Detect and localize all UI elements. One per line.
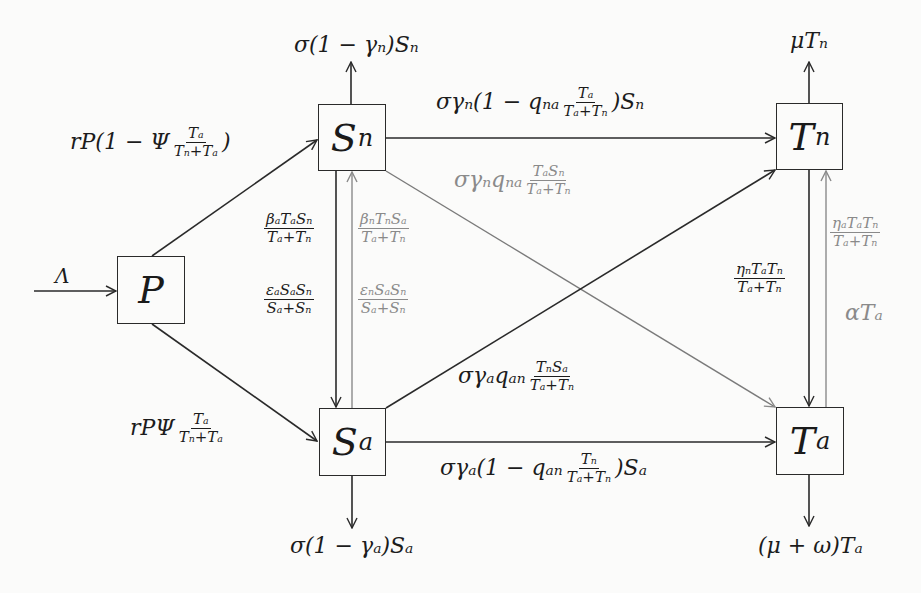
label-sa-to-sn-eps: εₙSₐSₙSₐ+Sₙ <box>356 283 410 316</box>
label-ta-out: (μ + ω)Tₐ <box>758 535 863 557</box>
label-p-to-sa: rPΨTₐTₙ+Tₐ <box>130 412 227 445</box>
label-sa-to-sn-beta: βₙTₙSₐTₐ+Tₙ <box>356 212 411 245</box>
label-tn-out: μTₙ <box>790 30 828 52</box>
label-sa-to-ta: σγₐ(1 − qₐₙTₙTₐ+Tₙ)Sₐ <box>440 452 647 485</box>
label-ta-to-tn-alpha: αTₐ <box>845 302 883 324</box>
label-sa-out: σ(1 − γₐ)Sₐ <box>290 535 413 557</box>
node-p-label: P <box>138 268 164 312</box>
label-sn-to-sa-eps: εₐSₐSₙSₐ+Sₙ <box>262 283 316 316</box>
node-sn-label: S <box>331 116 357 160</box>
node-tn-sub: n <box>815 123 830 151</box>
compartment-diagram: P Sn Sa Tn Ta Λ rP(1 − ΨTₐTₙ+Tₐ) rPΨTₐTₙ… <box>0 0 921 593</box>
node-sa-sub: a <box>359 428 373 456</box>
label-inflow-p: Λ <box>55 266 69 286</box>
node-sa: Sa <box>319 408 386 476</box>
label-ta-to-tn-eta: ηₐTₐTₙTₐ+Tₙ <box>828 216 882 249</box>
node-sa-label: S <box>332 420 358 464</box>
label-sa-to-tn: σγₐqₐₙTₙSₐTₐ+Tₙ <box>458 360 578 393</box>
label-sn-out: σ(1 − γₙ)Sₙ <box>294 34 419 56</box>
label-sn-to-tn: σγₙ(1 − qₙₐTₐTₐ+Tₙ)Sₙ <box>436 86 644 119</box>
node-sn-sub: n <box>358 124 373 152</box>
node-ta: Ta <box>776 407 844 475</box>
label-p-to-sn: rP(1 − ΨTₐTₙ+Tₐ) <box>70 126 231 159</box>
label-sn-to-sa-beta: βₐTₐSₙTₐ+Tₙ <box>262 212 316 245</box>
node-sn: Sn <box>318 104 386 171</box>
node-tn: Tn <box>776 103 843 170</box>
label-tn-to-ta-eta: ηₙTₐTₙTₐ+Tₙ <box>732 262 787 295</box>
label-sn-to-ta: σγₙqₙₐTₐSₙTₐ+Tₙ <box>454 164 575 197</box>
node-p: P <box>117 256 185 324</box>
node-tn-label: T <box>789 115 814 159</box>
node-ta-label: T <box>790 419 815 463</box>
node-ta-sub: a <box>816 427 830 455</box>
